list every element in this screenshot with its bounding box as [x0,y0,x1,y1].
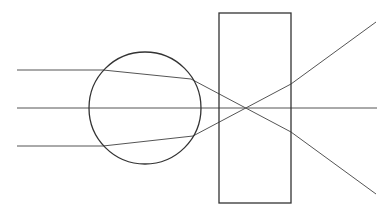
lower-ray [17,22,376,146]
optics-diagram [0,0,391,213]
upper-ray [17,70,376,194]
